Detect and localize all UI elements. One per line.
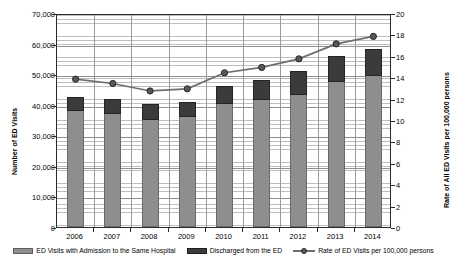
y-axis-right-title: Rate of All ED Visits per 100,000 person… — [443, 72, 450, 208]
rate-line-marker-icon — [296, 56, 302, 62]
y-axis-right-tick-mark — [391, 14, 395, 15]
y-axis-right-tick-label: 14 — [396, 74, 404, 83]
rate-line-marker-icon — [221, 70, 227, 76]
y-axis-right-tick-mark — [391, 207, 395, 208]
x-axis-tick-label: 2009 — [178, 232, 195, 241]
x-axis-separator — [168, 228, 169, 232]
legend-label-admitted: ED Visits with Admission to the Same Hos… — [36, 247, 175, 254]
y-axis-right-tick-mark — [391, 57, 395, 58]
y-axis-right-tick-label: 10 — [396, 117, 404, 126]
x-axis-tick-label: 2011 — [253, 232, 269, 241]
y-axis-right-tick-label: 0 — [396, 224, 400, 233]
y-axis-right-tick-label: 2 — [396, 202, 400, 211]
rate-line-marker-icon — [259, 64, 265, 70]
x-axis-tick-label: 2006 — [66, 232, 83, 241]
y-axis-right-tick-label: 8 — [396, 138, 400, 147]
rate-line-marker-icon — [110, 80, 116, 86]
x-axis-separator — [242, 228, 243, 232]
legend-swatch-discharged — [187, 248, 207, 254]
x-axis-separator — [205, 228, 206, 232]
x-axis-separator — [279, 228, 280, 232]
rate-line-marker-icon — [184, 86, 190, 92]
y-axis-right-tick-mark — [391, 100, 395, 101]
rate-line-marker-icon — [73, 76, 79, 82]
legend-item-discharged: Discharged from the ED — [187, 247, 283, 254]
chart-legend: ED Visits with Admission to the Same Hos… — [0, 247, 447, 254]
x-axis-tick-label: 2013 — [327, 232, 344, 241]
y-axis-left-title: Number of ED Visits — [11, 108, 18, 175]
bar-stack — [365, 49, 382, 227]
rate-line-series — [57, 15, 357, 165]
x-axis-separator — [93, 228, 94, 232]
legend-item-admitted: ED Visits with Admission to the Same Hos… — [13, 247, 175, 254]
x-axis-separator — [317, 228, 318, 232]
y-axis-right-tick-label: 18 — [396, 31, 404, 40]
x-axis-tick-label: 2012 — [290, 232, 307, 241]
x-axis-tick-label: 2008 — [141, 232, 158, 241]
y-axis-right-tick-mark — [391, 78, 395, 79]
x-axis-tick-label: 2014 — [364, 232, 381, 241]
rate-line-marker-icon — [370, 33, 376, 39]
x-axis-separator — [130, 228, 131, 232]
rate-line-path — [76, 36, 374, 91]
y-axis-right-tick-label: 16 — [396, 52, 404, 61]
legend-line-marker-icon — [301, 248, 307, 254]
x-axis-tick-label: 2007 — [103, 232, 120, 241]
bar-segment-admitted — [365, 76, 382, 227]
y-axis-right-tick-mark — [391, 121, 395, 122]
y-axis-right-tick-label: 20 — [396, 10, 404, 19]
y-axis-right-tick-label: 6 — [396, 159, 400, 168]
legend-label-discharged: Discharged from the ED — [210, 247, 283, 254]
x-axis-separator — [354, 228, 355, 232]
legend-item-rate: Rate of ED Visits per 100,000 persons — [293, 247, 434, 254]
rate-line-marker-icon — [333, 41, 339, 47]
legend-swatch-admitted — [13, 248, 33, 254]
rate-line-marker-icon — [147, 88, 153, 94]
plot-area — [56, 14, 391, 228]
y-axis-right-tick-mark — [391, 142, 395, 143]
y-axis-right-tick-label: 4 — [396, 181, 400, 190]
y-axis-right-tick-mark — [391, 185, 395, 186]
y-axis-right-tick-mark — [391, 35, 395, 36]
y-axis-right-tick-mark — [391, 164, 395, 165]
legend-swatch-rate-line — [293, 247, 315, 254]
x-axis-tick-label: 2010 — [215, 232, 232, 241]
legend-label-rate: Rate of ED Visits per 100,000 persons — [318, 247, 434, 254]
bar-segment-discharged — [365, 49, 382, 76]
y-axis-right-tick-mark — [391, 228, 395, 229]
y-axis-right-tick-label: 12 — [396, 95, 404, 104]
y-axis-left-tick-mark — [52, 228, 56, 229]
